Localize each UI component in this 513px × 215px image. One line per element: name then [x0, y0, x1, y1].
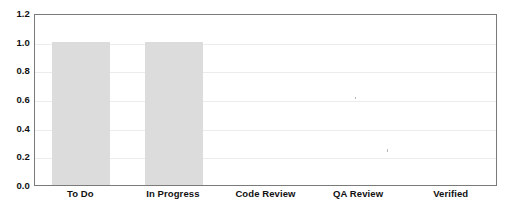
- x-axis-tick-label: To Do: [67, 188, 94, 200]
- y-axis-tick-label: 0.2: [2, 152, 34, 162]
- bar: [52, 42, 110, 185]
- y-axis-tick-labels: 0.00.20.40.60.81.01.2: [0, 14, 34, 186]
- x-axis-tick-label: In Progress: [146, 188, 199, 200]
- y-axis-tick-label: 1.0: [2, 38, 34, 48]
- y-axis-tick-label: 0.0: [2, 181, 34, 191]
- y-axis-tick-label: 0.8: [2, 66, 34, 76]
- jpeg-artifact-speck: [355, 97, 356, 99]
- x-axis-tick-label: QA Review: [333, 188, 383, 200]
- jpeg-artifact-speck: [387, 149, 388, 152]
- x-axis-tick-label: Code Review: [235, 188, 295, 200]
- plot-area: [34, 14, 497, 186]
- bar: [145, 42, 203, 185]
- y-axis-tick-label: 1.2: [2, 9, 34, 19]
- y-axis-tick-label: 0.6: [2, 95, 34, 105]
- x-axis-tick-labels: To DoIn ProgressCode ReviewQA ReviewVeri…: [34, 188, 497, 208]
- x-axis-tick-label: Verified: [433, 188, 468, 200]
- y-axis-tick-label: 0.4: [2, 124, 34, 134]
- bar-chart-figure: 0.00.20.40.60.81.01.2 To DoIn ProgressCo…: [0, 0, 513, 215]
- bar-series: [35, 15, 496, 185]
